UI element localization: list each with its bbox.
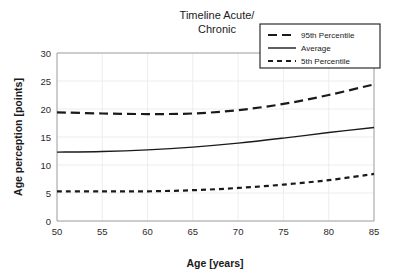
y-tick-label: 5 [46, 188, 51, 199]
chart-container: Timeline Acute/ Chronic 051015202530 505… [0, 0, 396, 274]
y-tick-label: 20 [40, 104, 51, 115]
y-tick-label: 25 [40, 76, 51, 87]
legend-label[interactable]: 95th Percentile [301, 31, 355, 40]
x-tick-label: 75 [278, 226, 289, 237]
y-axis-title: Age perception [points] [12, 78, 24, 196]
chart-title-line1: Timeline Acute/ [180, 9, 256, 21]
legend-label[interactable]: 5th Percentile [301, 57, 350, 66]
chart-title-line2: Chronic [198, 23, 236, 35]
x-tick-label: 85 [369, 226, 380, 237]
y-tick-label: 30 [40, 48, 51, 59]
y-tick-label: 0 [46, 216, 51, 227]
x-axis-title: Age [years] [186, 257, 243, 269]
x-tick-label: 80 [323, 226, 334, 237]
y-tick-label: 15 [40, 132, 51, 143]
x-tick-label: 70 [233, 226, 244, 237]
y-tick-label: 10 [40, 160, 51, 171]
x-tick-label: 60 [142, 226, 153, 237]
x-tick-label: 50 [52, 226, 63, 237]
line-chart: Timeline Acute/ Chronic 051015202530 505… [0, 0, 396, 274]
x-tick-label: 55 [97, 226, 108, 237]
x-tick-label: 65 [188, 226, 199, 237]
legend[interactable]: 95th PercentileAverage5th Percentile [260, 24, 380, 68]
legend-label[interactable]: Average [301, 44, 331, 53]
